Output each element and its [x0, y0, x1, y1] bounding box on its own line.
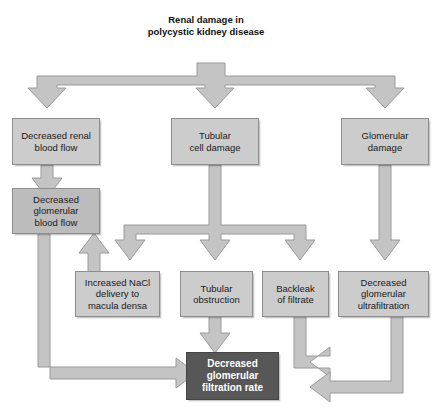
node-label-line: Glomerular — [359, 130, 412, 142]
node-backleak-of-filtrate[interactable]: Backleak of filtrate — [262, 271, 329, 317]
node-increased-nacl-delivery[interactable]: Increased NaCl delivery to macula densa — [75, 271, 160, 317]
diagram-title-line-2: polycystic kidney — [148, 26, 227, 37]
diagram-title-line-3: disease — [229, 26, 264, 37]
node-label-line: macula densa — [82, 300, 153, 312]
diagram-title: Renal damage in polycystic kidney diseas… — [144, 14, 268, 37]
arrow-title-bus — [28, 63, 404, 108]
node-label-line: Tubular — [186, 130, 243, 142]
node-label-line: blood flow — [30, 217, 82, 229]
node-decreased-renal-blood-flow[interactable]: Decreased renal blood flow — [12, 118, 100, 165]
node-label-line: Tubular — [190, 283, 242, 295]
arrow-nacl-to-glomflow — [79, 233, 109, 272]
flowchart-diagram: Renal damage in polycystic kidney diseas… — [0, 0, 443, 417]
node-label-line: Increased NaCl — [82, 277, 153, 289]
arrow-tubularcell-bus — [115, 165, 315, 260]
node-label-line: glomerular — [199, 370, 266, 382]
arrow-backleak-to-gfr — [294, 316, 330, 377]
node-label-line: blood flow — [18, 142, 94, 154]
node-label-line: Decreased renal — [18, 130, 94, 142]
node-decreased-gfr[interactable]: Decreased glomerular filtration rate — [186, 352, 279, 400]
node-label-line: damage — [359, 142, 412, 154]
node-decreased-glomerular-ultrafiltration[interactable]: Decreased glomerular ultrafiltration — [338, 271, 429, 317]
node-label-line: glomerular — [30, 205, 82, 217]
node-label-line: Decreased — [30, 194, 82, 206]
arrow-glomdamage-to-ultrafilt — [370, 165, 400, 260]
node-label-line: obstruction — [190, 294, 242, 306]
node-label-line: of filtrate — [273, 294, 318, 306]
node-label-line: filtration rate — [199, 382, 266, 394]
node-decreased-glomerular-blood-flow[interactable]: Decreased glomerular blood flow — [12, 188, 100, 234]
node-label-line: cell damage — [186, 142, 243, 154]
node-label-line: Decreased — [355, 277, 413, 289]
arrow-ultrafilt-to-gfr — [310, 316, 403, 402]
arrow-obstruction-to-gfr — [200, 316, 230, 353]
node-label-line: Backleak — [273, 283, 318, 295]
node-glomerular-damage[interactable]: Glomerular damage — [341, 118, 429, 165]
node-tubular-cell-damage[interactable]: Tubular cell damage — [171, 118, 259, 165]
node-tubular-obstruction[interactable]: Tubular obstruction — [180, 271, 253, 317]
node-label-line: delivery to — [82, 288, 153, 300]
diagram-title-line-1: Renal damage in — [168, 14, 244, 25]
node-label-line: Decreased — [199, 358, 266, 370]
node-label-line: glomerular — [355, 288, 413, 300]
node-label-line: ultrafiltration — [355, 300, 413, 312]
